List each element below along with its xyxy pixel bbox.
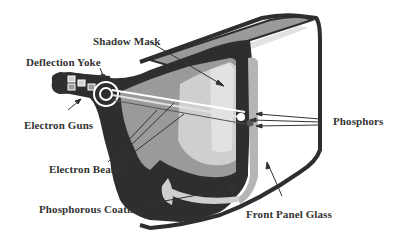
electron-gun-2	[78, 80, 85, 86]
crt-diagram: Shadow Mask Deflection Yoke Electron Gun…	[0, 0, 403, 238]
electron-gun-4	[88, 84, 95, 90]
phosphor-band	[236, 58, 248, 197]
label-shadow-mask: Shadow Mask	[93, 36, 160, 47]
electron-gun-3	[68, 84, 75, 90]
phosphor-dot-1	[237, 113, 245, 121]
label-front-panel-glass: Front Panel Glass	[246, 209, 332, 220]
label-electron-beams: Electron Beams	[49, 164, 124, 175]
electron-gun-1	[68, 76, 75, 82]
label-phosphors: Phosphors	[333, 116, 383, 127]
label-deflection-yoke: Deflection Yoke	[26, 57, 101, 68]
deflection-yoke-inner	[100, 88, 112, 100]
label-phosphorous-coating: Phosphorous Coating	[39, 204, 142, 215]
label-electron-guns: Electron Guns	[24, 120, 93, 131]
